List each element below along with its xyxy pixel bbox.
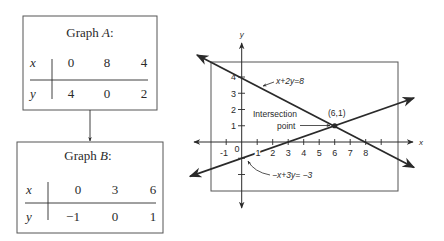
x-tick-labels: -1 0 1 2 3 4 5 6 7 8 [220,144,368,158]
equation-leader-arrow [248,161,270,175]
figure: Graph A: x y 0 8 4 4 0 2 Graph B: x y 0 … [0,0,444,241]
table-graph-a: Graph A: x y 0 8 4 4 0 2 [23,16,157,110]
equation-label-line1: x+2y=8 [275,76,304,86]
svg-text:4: 4 [231,72,236,82]
row-label-x: x [29,55,36,70]
svg-text:4: 4 [301,148,306,158]
row-label-y: y [28,86,36,101]
svg-text:8: 8 [363,148,368,158]
equation-label-line2: −x+3y= −3 [272,170,312,180]
svg-text:7: 7 [348,148,353,158]
svg-text:3: 3 [286,148,291,158]
x-axis-label: x [418,138,424,147]
svg-text:2: 2 [231,105,236,115]
row-label-y: y [24,209,32,224]
table-cell: 0 [68,55,75,70]
intersection-point [332,123,337,128]
table-title: Graph A: [66,25,113,40]
table-cell: 8 [104,55,111,70]
svg-text:2: 2 [270,148,275,158]
row-label-x: x [25,182,32,197]
svg-text:0: 0 [234,144,239,154]
svg-text:1: 1 [231,121,236,131]
table-cell: 4 [68,86,75,101]
table-cell: −1 [66,209,80,224]
graph: x y -1 0 [190,30,424,208]
intersection-coordinates: (6,1) [328,108,346,118]
y-axis-label: y [239,30,245,39]
table-cell: 0 [75,182,82,197]
table-title: Graph B: [64,148,111,163]
intersection-caption: Intersection [253,109,297,119]
table-cell: 0 [104,86,111,101]
table-cell: 3 [112,182,119,197]
svg-text:1: 1 [255,148,260,158]
svg-text:-1: -1 [220,148,228,158]
table-cell: 0 [112,209,119,224]
table-cell: 1 [150,209,157,224]
svg-text:3: 3 [231,89,236,99]
y-tick-labels: 4 3 2 1 [231,72,236,131]
svg-text:6: 6 [332,148,337,158]
table-cell: 6 [150,182,157,197]
equation-leader-arrow [263,82,274,86]
intersection-caption: point [277,121,296,131]
table-cell: 2 [141,86,148,101]
table-cell: 4 [141,55,148,70]
svg-text:5: 5 [317,148,322,158]
table-graph-b: Graph B: x y 0 3 6 −1 0 1 [17,142,163,233]
